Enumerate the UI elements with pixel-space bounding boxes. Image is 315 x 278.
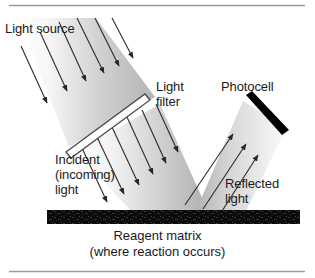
label-light-source: Light source	[5, 21, 75, 36]
reflectance-photometry-diagram: Light source Light filter Photocell Inci…	[0, 0, 315, 278]
label-light-filter: Light filter	[156, 79, 184, 109]
label-reflected-light: Reflected light	[225, 176, 279, 206]
figure-caption: Reagent matrix (where reaction occurs)	[0, 228, 315, 260]
reagent-matrix-bar	[47, 210, 300, 224]
label-photocell: Photocell	[221, 79, 274, 94]
label-incident-light: Incident (incoming) light	[55, 152, 115, 197]
